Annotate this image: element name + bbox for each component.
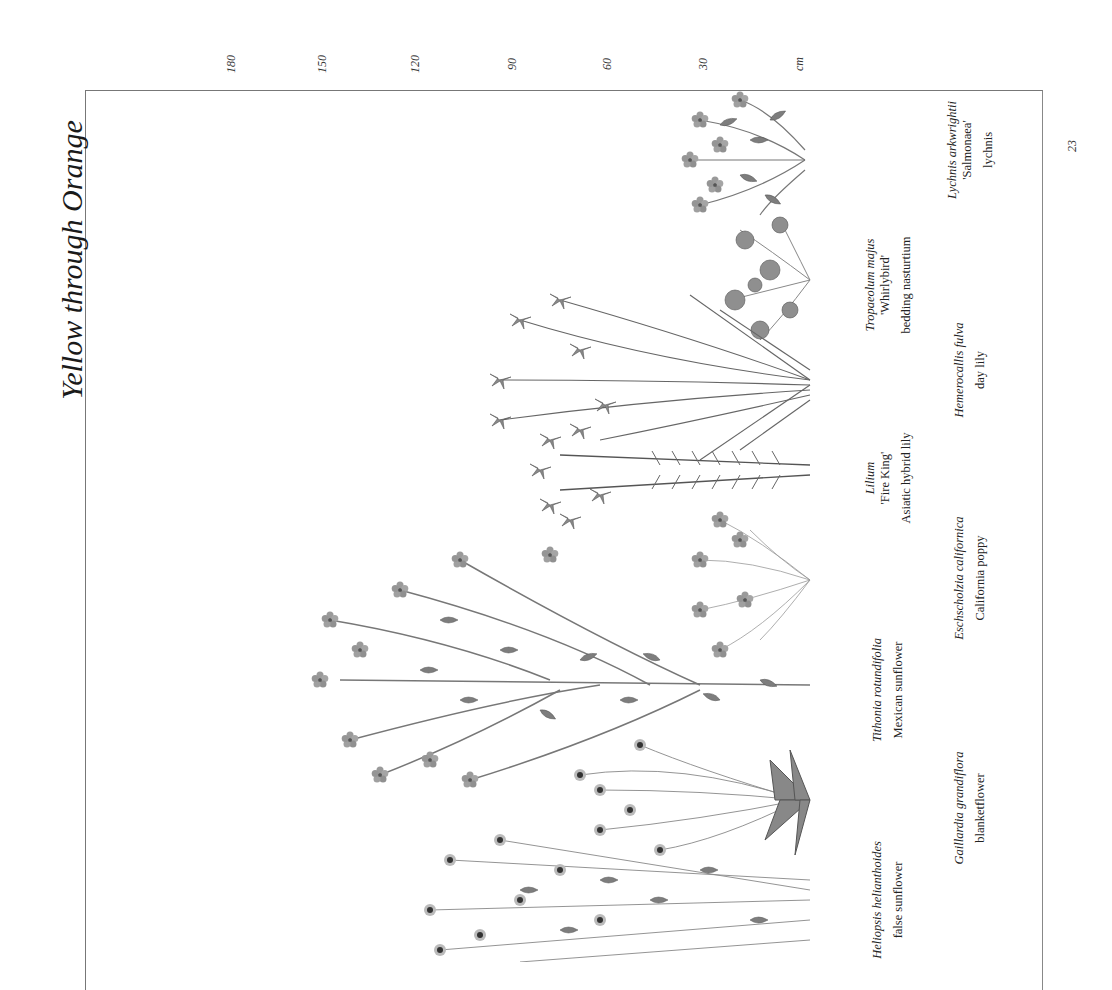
plant-label: Lychnis arkwrightii'Salmonaea'lychnis bbox=[945, 101, 996, 199]
mexican-sunflower-illustration bbox=[312, 547, 810, 788]
common-name: blanketflower bbox=[973, 751, 988, 864]
cultivar-name: 'Fire King' bbox=[878, 433, 893, 524]
common-name: lychnis bbox=[981, 101, 996, 199]
plant-label: Tithonia rotundifoliaMexican sunflower bbox=[870, 638, 906, 742]
common-name: bedding nasturtium bbox=[899, 237, 914, 334]
scientific-name: Tithonia rotundifolia bbox=[870, 638, 885, 742]
common-name: false sunflower bbox=[891, 841, 906, 959]
scientific-name: Gaillardia grandiflora bbox=[952, 751, 967, 864]
common-name: Mexican sunflower bbox=[891, 638, 906, 742]
scientific-name: Tropaeolum majus bbox=[863, 237, 878, 334]
day-lily-illustration bbox=[490, 294, 810, 460]
scientific-name: Lychnis arkwrightii bbox=[945, 101, 960, 199]
lychnis-illustration bbox=[682, 92, 805, 216]
asiatic-lily-illustration bbox=[530, 424, 810, 529]
cultivar-name: 'Salmonaea' bbox=[960, 101, 975, 199]
scientific-name: Eschscholzia californica bbox=[952, 516, 967, 639]
cultivar-name: 'Whirlybird' bbox=[878, 237, 893, 334]
california-poppy-illustration bbox=[692, 512, 810, 658]
plant-label: Gaillardia grandiflorablanketflower bbox=[952, 751, 988, 864]
scientific-name: Heliopsis helianthoides bbox=[870, 841, 885, 959]
common-name: day lily bbox=[973, 322, 988, 417]
plant-label: Eschscholzia californicaCalifornia poppy bbox=[952, 516, 988, 639]
common-name: California poppy bbox=[973, 516, 988, 639]
common-name: Asiatic hybrid lily bbox=[899, 433, 914, 524]
scientific-name: Hemerocallis fulva bbox=[952, 322, 967, 417]
plant-label: Tropaeolum majus'Whirlybird'bedding nast… bbox=[863, 237, 914, 334]
blanketflower-illustration bbox=[574, 739, 810, 856]
plant-label: Heliopsis helianthoidesfalse sunflower bbox=[870, 841, 906, 959]
plant-label: Hemerocallis fulvaday lily bbox=[952, 322, 988, 417]
false-sunflower-illustration bbox=[424, 834, 810, 962]
plant-label: Lilium'Fire King'Asiatic hybrid lily bbox=[863, 433, 914, 524]
scientific-name: Lilium bbox=[863, 433, 878, 524]
